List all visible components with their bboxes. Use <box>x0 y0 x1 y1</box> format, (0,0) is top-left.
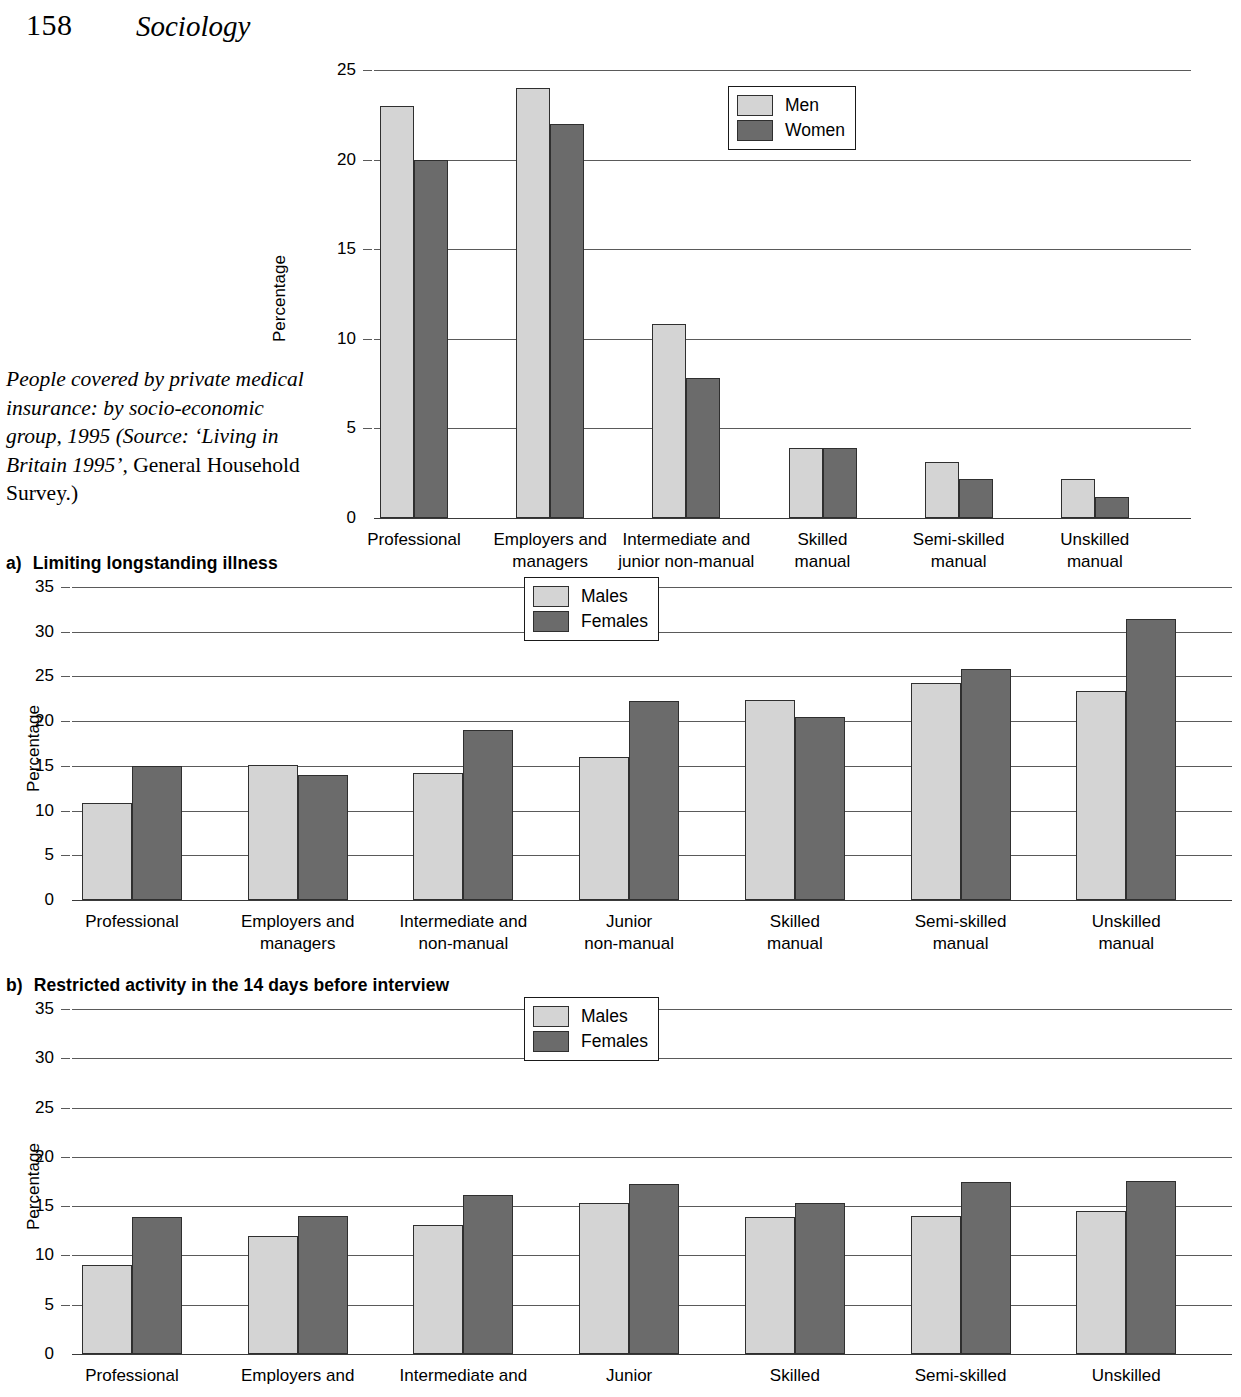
gridline <box>72 1157 1232 1158</box>
y-tick-mark <box>61 587 70 588</box>
plot-area-chart-2: 05101520253035PercentageProfessionalEmpl… <box>72 587 1232 900</box>
legend-item-males: Males <box>533 1004 648 1029</box>
y-tick-label: 10 <box>4 802 54 819</box>
bar-females <box>629 1184 679 1354</box>
legend-item-females: Females <box>533 609 648 634</box>
bar-men <box>652 324 686 518</box>
section-title-a: Limiting longstanding illness <box>33 553 278 573</box>
y-tick-label: 25 <box>4 667 54 684</box>
x-tick-label: Junior <box>546 1365 712 1387</box>
y-axis-title: Percentage <box>270 255 290 342</box>
bar-females <box>629 701 679 900</box>
legend-swatch-males <box>533 1006 569 1027</box>
legend-item-females: Females <box>533 1029 648 1054</box>
gridline <box>374 249 1191 250</box>
y-axis-title: Percentage <box>24 1143 44 1230</box>
bar-women <box>823 448 857 518</box>
chart-private-medical-insurance: 0510152025PercentageProfessionalEmployer… <box>0 55 1241 520</box>
y-tick-label: 0 <box>306 509 356 526</box>
bar-females <box>463 730 513 900</box>
x-tick-label: Professional <box>49 911 215 933</box>
x-tick-label: Skilled manual <box>754 529 890 572</box>
y-tick-label: 25 <box>4 1099 54 1116</box>
y-tick-label: 0 <box>4 1345 54 1362</box>
y-tick-mark <box>61 1058 70 1059</box>
x-tick-label: Professional <box>346 529 482 551</box>
chart-limiting-longstanding-illness: 05101520253035PercentageProfessionalEmpl… <box>0 575 1241 965</box>
y-tick-label: 5 <box>4 846 54 863</box>
x-tick-label: Semi-skilled <box>878 1365 1044 1387</box>
y-tick-mark <box>61 721 70 722</box>
section-heading-b: b)Restricted activity in the 14 days bef… <box>6 975 449 996</box>
bar-men <box>516 88 550 518</box>
bar-men <box>925 462 959 518</box>
x-tick-label: Intermediate and non-manual <box>381 911 547 954</box>
bar-males <box>1076 691 1126 900</box>
legend-label-males: Males <box>581 1008 628 1026</box>
legend-item-males: Males <box>533 584 648 609</box>
y-tick-mark <box>61 1157 70 1158</box>
legend-swatch-females <box>533 1031 569 1052</box>
bar-males <box>413 1225 463 1354</box>
y-tick-label: 15 <box>306 240 356 257</box>
section-title-b: Restricted activity in the 14 days befor… <box>34 975 450 995</box>
y-tick-label: 5 <box>306 419 356 436</box>
y-tick-label: 30 <box>4 623 54 640</box>
legend-swatch-women <box>737 120 773 141</box>
bar-women <box>414 160 448 518</box>
bar-males <box>745 1217 795 1354</box>
legend: MenWomen <box>728 86 856 150</box>
bar-males <box>911 1216 961 1354</box>
y-tick-label: 30 <box>4 1049 54 1066</box>
y-tick-label: 10 <box>306 330 356 347</box>
bar-females <box>961 1182 1011 1355</box>
bar-males <box>745 700 795 900</box>
bar-females <box>298 1216 348 1354</box>
y-tick-label: 5 <box>4 1296 54 1313</box>
bar-females <box>795 1203 845 1354</box>
bar-females <box>463 1195 513 1354</box>
y-tick-mark <box>363 249 372 250</box>
bar-females <box>132 1217 182 1354</box>
y-tick-label: 25 <box>306 61 356 78</box>
x-axis-line <box>72 1354 1232 1355</box>
x-tick-label: Unskilled manual <box>1027 529 1163 572</box>
y-tick-mark <box>61 1108 70 1109</box>
legend-swatch-males <box>533 586 569 607</box>
legend: MalesFemales <box>524 577 659 641</box>
bar-males <box>911 683 961 900</box>
gridline <box>374 428 1191 429</box>
legend-swatch-females <box>533 611 569 632</box>
y-tick-mark <box>61 1255 70 1256</box>
section-heading-a: a)Limiting longstanding illness <box>6 553 278 574</box>
section-marker-a: a) <box>6 553 22 573</box>
x-tick-label: Intermediate and junior non-manual <box>618 529 754 572</box>
legend-swatch-men <box>737 95 773 116</box>
legend-label-females: Females <box>581 613 648 631</box>
bar-females <box>795 717 845 900</box>
bar-males <box>1076 1211 1126 1354</box>
chart-restricted-activity: 05101520253035PercentageProfessionalEmpl… <box>0 995 1241 1397</box>
y-tick-mark <box>61 855 70 856</box>
y-tick-label: 10 <box>4 1246 54 1263</box>
bar-females <box>1126 1181 1176 1354</box>
y-tick-mark <box>363 160 372 161</box>
y-axis-title: Percentage <box>24 705 44 792</box>
y-tick-mark <box>61 632 70 633</box>
x-tick-label: Skilled manual <box>712 911 878 954</box>
bar-males <box>579 757 629 900</box>
x-tick-label: Professional <box>49 1365 215 1387</box>
y-tick-mark <box>61 811 70 812</box>
gridline <box>374 70 1191 71</box>
legend-item-women: Women <box>737 118 845 143</box>
y-tick-label: 20 <box>306 151 356 168</box>
y-tick-mark <box>363 339 372 340</box>
bar-males <box>82 803 132 900</box>
x-tick-label: Skilled <box>712 1365 878 1387</box>
plot-area-chart-3: 05101520253035PercentageProfessionalEmpl… <box>72 1009 1232 1354</box>
x-axis-line <box>72 900 1232 901</box>
x-tick-label: Intermediate and <box>381 1365 547 1387</box>
bar-males <box>248 765 298 900</box>
x-tick-label: Unskilled manual <box>1043 911 1209 954</box>
x-tick-label: Semi-skilled manual <box>891 529 1027 572</box>
